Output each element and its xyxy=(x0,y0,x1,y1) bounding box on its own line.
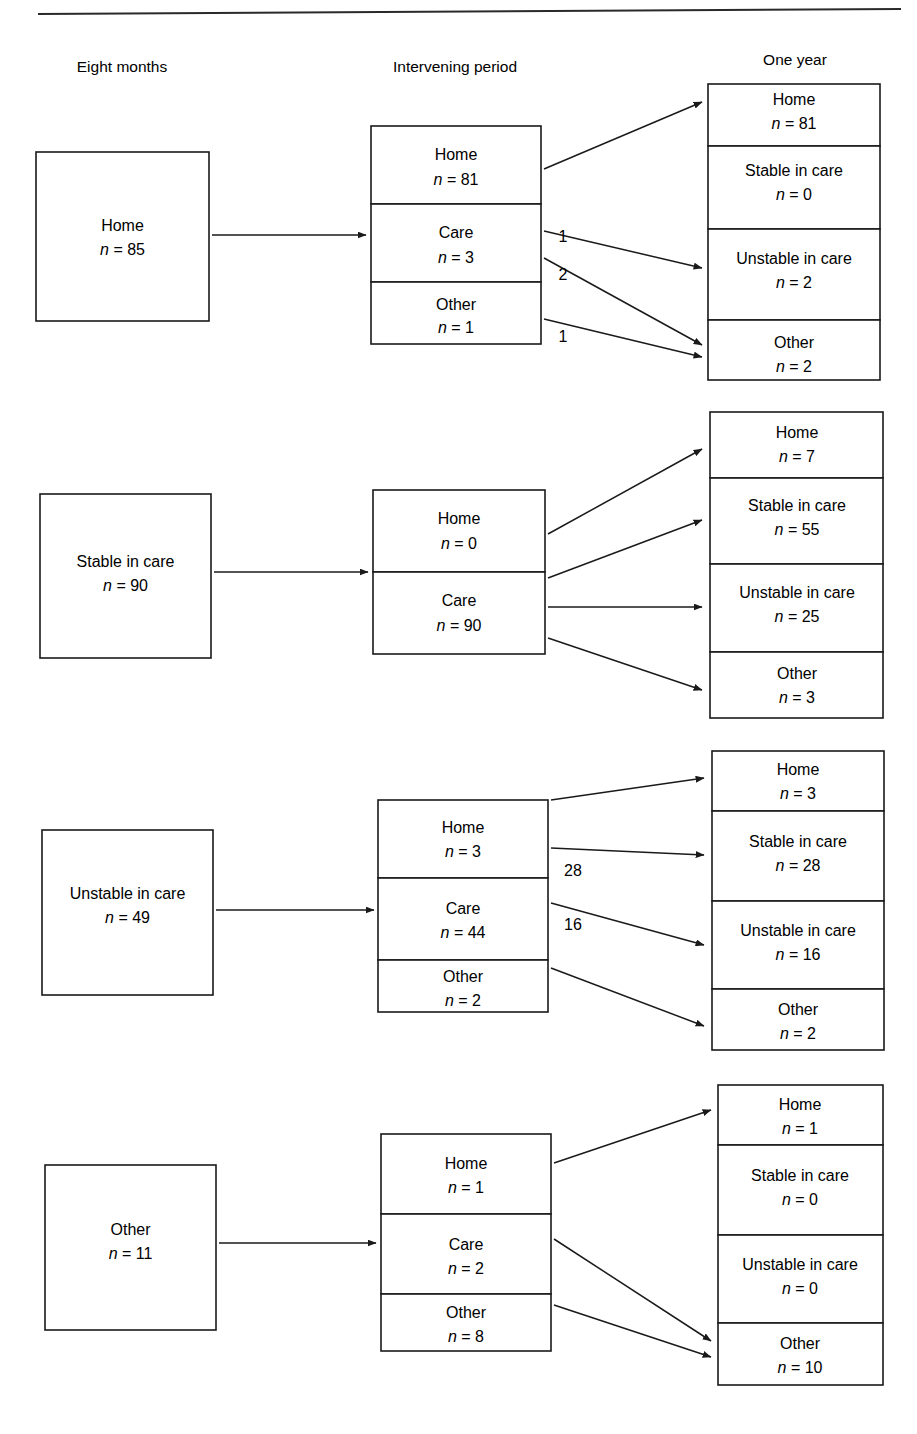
outcome-count-stable: n = 55 xyxy=(775,521,820,538)
intervening-box-home xyxy=(378,800,548,878)
outcome-count-stable: n = 0 xyxy=(776,186,812,203)
intervening-label-care: Care xyxy=(449,1236,484,1253)
origin-count: n = 49 xyxy=(105,909,150,926)
column-header-intervening-period: Intervening period xyxy=(393,58,517,75)
outcome-box-stable xyxy=(718,1145,883,1235)
intervening-box-care xyxy=(378,878,548,960)
outcome-label-home: Home xyxy=(776,424,819,441)
outcome-label-stable: Stable in care xyxy=(748,497,846,514)
outcome-label-home: Home xyxy=(777,761,820,778)
outcome-count-home: n = 7 xyxy=(779,448,815,465)
intervening-label-other: Other xyxy=(436,296,477,313)
intervening-count-care: n = 2 xyxy=(448,1260,484,1277)
intervening-count-care: n = 3 xyxy=(438,249,474,266)
flow-care-to-other xyxy=(544,258,702,345)
group-home: Home n = 85 Home n = 81 Care n = 3 Other… xyxy=(36,84,880,380)
intervening-label-care: Care xyxy=(442,592,477,609)
origin-count: n = 11 xyxy=(109,1245,153,1262)
intervening-count-home: n = 0 xyxy=(441,535,477,552)
column-header-one-year: One year xyxy=(763,51,827,68)
intervening-box-care xyxy=(381,1214,551,1294)
outcome-count-unstable: n = 16 xyxy=(776,946,821,963)
outcome-count-home: n = 3 xyxy=(780,785,816,802)
outcome-label-other: Other xyxy=(780,1335,821,1352)
outcome-label-stable: Stable in care xyxy=(745,162,843,179)
outcome-count-other: n = 10 xyxy=(778,1359,823,1376)
group-unstable-in-care: Unstable in care n = 49 Home n = 3 Care … xyxy=(42,751,884,1050)
origin-label: Other xyxy=(110,1221,151,1238)
outcome-count-other: n = 2 xyxy=(776,358,812,375)
intervening-label-home: Home xyxy=(435,146,478,163)
edge-label-28: 28 xyxy=(564,862,582,879)
flow-home-to-home xyxy=(554,1110,711,1163)
intervening-box-home xyxy=(381,1134,551,1214)
flow-diagram: Eight months Intervening period One year… xyxy=(0,0,917,1434)
intervening-label-home: Home xyxy=(438,510,481,527)
column-header-eight-months: Eight months xyxy=(77,58,168,75)
outcome-label-stable: Stable in care xyxy=(751,1167,849,1184)
origin-label: Unstable in care xyxy=(70,885,186,902)
outcome-count-home: n = 1 xyxy=(782,1120,818,1137)
outcome-box-unstable xyxy=(718,1235,883,1323)
intervening-label-care: Care xyxy=(439,224,474,241)
flow-care-to-other xyxy=(554,1239,711,1341)
edge-label-16: 16 xyxy=(564,916,582,933)
intervening-box-home xyxy=(371,126,541,204)
intervening-box-home xyxy=(373,490,545,572)
group-stable-in-care: Stable in care n = 90 Home n = 0 Care n … xyxy=(40,412,883,718)
intervening-label-home: Home xyxy=(445,1155,488,1172)
outcome-count-other: n = 2 xyxy=(780,1025,816,1042)
intervening-count-home: n = 81 xyxy=(434,171,479,188)
origin-label: Stable in care xyxy=(77,553,175,570)
outcome-label-stable: Stable in care xyxy=(749,833,847,850)
intervening-count-home: n = 3 xyxy=(445,843,481,860)
outcome-box-unstable xyxy=(712,901,884,989)
flow-home-to-home xyxy=(551,778,704,800)
intervening-label-home: Home xyxy=(442,819,485,836)
intervening-count-other: n = 1 xyxy=(438,319,474,336)
outcome-count-unstable: n = 0 xyxy=(782,1280,818,1297)
outcome-label-home: Home xyxy=(779,1096,822,1113)
edge-label-1b: 1 xyxy=(559,328,568,345)
flow-home-to-stable xyxy=(551,848,704,855)
intervening-label-other: Other xyxy=(443,968,484,985)
outcome-box-home xyxy=(712,751,884,811)
outcome-count-stable: n = 28 xyxy=(776,857,821,874)
origin-label: Home xyxy=(101,217,144,234)
intervening-box-care xyxy=(371,204,541,282)
top-rule xyxy=(38,9,901,14)
intervening-label-care: Care xyxy=(446,900,481,917)
flow-home-to-home xyxy=(548,449,702,534)
outcome-label-unstable: Unstable in care xyxy=(736,250,852,267)
flow-home-to-home xyxy=(544,102,702,169)
origin-box xyxy=(40,494,211,658)
flow-other-to-other xyxy=(554,1305,711,1357)
outcome-box-home xyxy=(710,412,883,478)
intervening-count-other: n = 8 xyxy=(448,1328,484,1345)
intervening-label-other: Other xyxy=(446,1304,487,1321)
origin-count: n = 90 xyxy=(103,577,148,594)
flow-care-to-unstable xyxy=(544,231,702,268)
outcome-count-other: n = 3 xyxy=(779,689,815,706)
flow-care-to-other xyxy=(548,638,702,690)
outcome-box-other xyxy=(710,652,883,718)
outcome-label-other: Other xyxy=(774,334,815,351)
origin-count: n = 85 xyxy=(100,241,145,258)
outcome-count-unstable: n = 2 xyxy=(776,274,812,291)
outcome-label-unstable: Unstable in care xyxy=(742,1256,858,1273)
outcome-label-home: Home xyxy=(773,91,816,108)
edge-label-1a: 1 xyxy=(559,228,568,245)
outcome-label-other: Other xyxy=(778,1001,819,1018)
outcome-count-unstable: n = 25 xyxy=(775,608,820,625)
flow-other-to-other xyxy=(544,319,702,357)
flow-care-to-stable xyxy=(548,520,702,578)
intervening-box-care xyxy=(373,572,545,654)
outcome-count-home: n = 81 xyxy=(772,115,817,132)
intervening-count-other: n = 2 xyxy=(445,992,481,1009)
intervening-count-home: n = 1 xyxy=(448,1179,484,1196)
outcome-box-stable xyxy=(712,811,884,901)
edge-label-2: 2 xyxy=(559,266,568,283)
outcome-count-stable: n = 0 xyxy=(782,1191,818,1208)
origin-box xyxy=(36,152,209,321)
outcome-label-other: Other xyxy=(777,665,818,682)
